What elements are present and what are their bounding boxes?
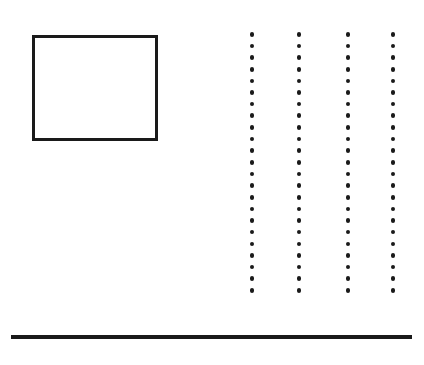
dot [391,218,396,223]
dot [346,172,351,177]
dot [250,79,255,84]
dot [250,265,255,270]
dot [391,67,396,72]
dot [250,67,255,72]
dot [391,288,396,293]
dot [391,79,396,84]
dot [250,218,255,223]
dot [346,218,351,223]
dot [250,125,255,130]
dot [250,55,255,60]
dot [297,79,302,84]
dot [250,207,255,212]
dot [250,230,255,235]
dot [391,32,396,37]
dot [250,102,255,107]
dot [250,242,255,247]
dot [250,44,255,49]
dot [297,195,302,200]
dot [297,183,302,188]
dot [391,90,396,95]
dot [346,137,351,142]
dot [346,265,351,270]
horizontal-rule-bar [11,335,412,339]
dot [346,102,351,107]
dot [297,44,302,49]
dot [346,113,351,118]
dot [297,102,302,107]
dot [346,207,351,212]
dot [250,137,255,142]
dot [391,44,396,49]
dot [391,242,396,247]
dot [297,137,302,142]
dot [391,183,396,188]
dot [250,90,255,95]
dot [297,253,302,258]
dot [346,242,351,247]
dot [250,32,255,37]
dot [297,32,302,37]
dot [346,253,351,258]
dot [346,148,351,153]
dot [250,160,255,165]
dot [391,253,396,258]
dot [391,137,396,142]
dot [391,55,396,60]
dot [346,288,351,293]
dot [391,148,396,153]
dot-column-4 [391,32,396,293]
dot [297,160,302,165]
figure-canvas [0,0,424,365]
dot [346,79,351,84]
dot [346,195,351,200]
dot [297,276,302,281]
dot [250,195,255,200]
outlined-rectangle [32,35,158,141]
dot [297,90,302,95]
dot [297,125,302,130]
dot [391,230,396,235]
dot [346,125,351,130]
dot-column-3 [346,32,351,293]
dot [391,160,396,165]
dot [391,172,396,177]
dot-column-2 [297,32,302,293]
dot [346,230,351,235]
dot [391,125,396,130]
dot [391,102,396,107]
dot [346,44,351,49]
dot [250,148,255,153]
dot [297,230,302,235]
dot [250,288,255,293]
dot [391,195,396,200]
dot [250,183,255,188]
dot [346,67,351,72]
dot [391,113,396,118]
dot [391,207,396,212]
dot [297,265,302,270]
dot [297,55,302,60]
dot [297,218,302,223]
dot [346,90,351,95]
dot [346,160,351,165]
dot [297,113,302,118]
dot-column-1 [250,32,255,293]
dot [391,265,396,270]
dot [250,253,255,258]
dot [250,113,255,118]
dot [297,172,302,177]
dot [297,288,302,293]
dot [250,172,255,177]
dot [346,183,351,188]
dot [346,55,351,60]
dot [346,32,351,37]
dot [297,242,302,247]
dot [250,276,255,281]
dot [346,276,351,281]
dot [391,276,396,281]
dot [297,207,302,212]
dot [297,148,302,153]
dot [297,67,302,72]
